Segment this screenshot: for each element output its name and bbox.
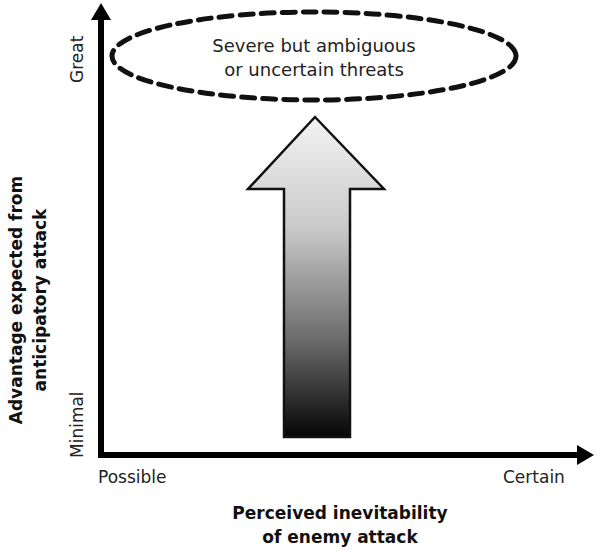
x-axis-low-label: Possible [98,469,166,486]
y-axis-high-label: Great [69,36,86,83]
y-axis-title-line2: anticipatory attack [28,130,52,470]
y-axis-title-line1: Advantage expected from [4,130,28,470]
ellipse-label: Severe but ambiguous or uncertain threat… [164,34,464,82]
y-axis [91,3,111,458]
y-axis-arrowhead-icon [91,3,111,20]
y-axis-title-wrap: Advantage expected from anticipatory att… [2,130,54,470]
x-axis-title-line1: Perceived inevitability [180,501,500,525]
ellipse-label-line2: or uncertain threats [164,58,464,82]
x-axis-title-line2: of enemy attack [180,525,500,549]
x-axis-arrowhead-icon [577,445,594,465]
y-axis-line [98,16,104,458]
x-axis [98,445,594,465]
ellipse-label-line1: Severe but ambiguous [164,34,464,58]
block-arrow-up-icon [248,117,384,437]
x-axis-high-label: Certain [503,469,565,486]
x-axis-line [98,452,580,458]
y-axis-title: Advantage expected from anticipatory att… [4,130,52,470]
y-axis-low-label: Minimal [69,391,86,458]
x-axis-title: Perceived inevitability of enemy attack [180,501,500,549]
